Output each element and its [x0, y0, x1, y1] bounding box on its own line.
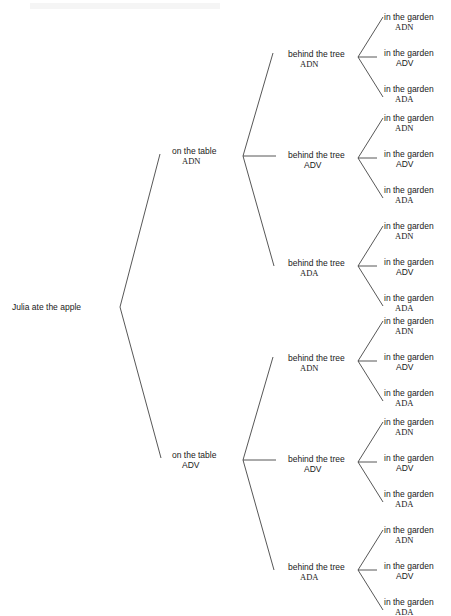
leaf-node-label: in the garden — [384, 186, 434, 195]
level1-node-label: on the table — [172, 451, 216, 460]
leaf-node-label: in the garden — [384, 13, 434, 22]
branch-line — [358, 226, 383, 266]
leaf-node-label: in the garden — [384, 562, 434, 571]
branch-line — [358, 118, 383, 158]
level1-node-label: on the table — [172, 147, 216, 156]
leaf-node-label: in the garden — [384, 526, 434, 535]
branch-line — [358, 17, 383, 57]
leaf-node-tag: ADN — [395, 124, 413, 133]
branch-line — [358, 57, 383, 97]
leaf-node-label: in the garden — [384, 150, 434, 159]
branch-line — [358, 266, 383, 306]
level2-node-label: behind the tree — [288, 151, 345, 160]
branch-line — [243, 156, 274, 266]
leaf-node-tag: ADA — [395, 500, 413, 509]
leaf-node-label: in the garden — [384, 389, 434, 398]
level2-node-label: behind the tree — [288, 50, 345, 59]
branch-line — [358, 361, 383, 401]
leaf-node-tag: ADA — [395, 399, 413, 408]
leaf-node-tag: ADN — [395, 23, 413, 32]
leaf-node-tag: ADN — [395, 428, 413, 437]
level2-node-tag: ADN — [300, 60, 318, 69]
leaf-node-label: in the garden — [384, 454, 434, 463]
leaf-node-label: in the garden — [384, 317, 434, 326]
branch-line — [358, 158, 383, 198]
leaf-node-label: in the garden — [384, 85, 434, 94]
leaf-node-label: in the garden — [384, 114, 434, 123]
level2-node-label: behind the tree — [288, 259, 345, 268]
branch-line — [358, 570, 383, 610]
leaf-node-tag: ADA — [395, 95, 413, 104]
level2-node-label: behind the tree — [288, 563, 345, 572]
leaf-node-label: in the garden — [384, 222, 434, 231]
branch-line — [358, 462, 383, 502]
leaf-node-tag: ADV — [396, 572, 413, 581]
leaf-node-label: in the garden — [384, 598, 434, 607]
level2-node-tag: ADV — [304, 465, 321, 474]
leaf-node-tag: ADN — [395, 536, 413, 545]
root-node-label: Julia ate the apple — [12, 303, 81, 312]
level2-node-tag: ADN — [300, 364, 318, 373]
leaf-node-label: in the garden — [384, 353, 434, 362]
leaf-node-tag: ADV — [396, 363, 413, 372]
branch-line — [358, 321, 383, 361]
leaf-node-tag: ADN — [395, 232, 413, 241]
leaf-node-tag: ADV — [396, 464, 413, 473]
branch-line — [243, 460, 274, 570]
level2-node-tag: ADA — [300, 573, 318, 582]
branch-line — [120, 154, 160, 307]
leaf-node-tag: ADA — [395, 608, 413, 616]
branch-line — [358, 422, 383, 462]
leaf-node-tag: ADV — [396, 59, 413, 68]
leaf-node-tag: ADA — [395, 196, 413, 205]
branch-line — [120, 307, 161, 458]
level2-node-tag: ADA — [300, 269, 318, 278]
leaf-node-tag: ADN — [395, 327, 413, 336]
level2-node-tag: ADV — [304, 161, 321, 170]
leaf-node-tag: ADV — [396, 268, 413, 277]
branch-line — [243, 53, 273, 156]
leaf-node-label: in the garden — [384, 418, 434, 427]
leaf-node-tag: ADV — [396, 160, 413, 169]
level2-node-label: behind the tree — [288, 455, 345, 464]
level1-node-tag: ADN — [182, 157, 200, 166]
leaf-node-label: in the garden — [384, 49, 434, 58]
branch-line — [358, 530, 383, 570]
leaf-node-tag: ADA — [395, 304, 413, 313]
level2-node-label: behind the tree — [288, 354, 345, 363]
level1-node-tag: ADV — [182, 461, 199, 470]
leaf-node-label: in the garden — [384, 294, 434, 303]
leaf-node-label: in the garden — [384, 490, 434, 499]
branch-line — [243, 357, 273, 460]
leaf-node-label: in the garden — [384, 258, 434, 267]
